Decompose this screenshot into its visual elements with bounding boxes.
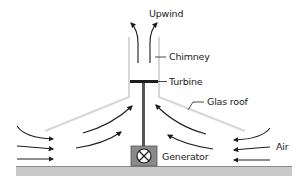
air-arrow-left-2 xyxy=(17,146,53,149)
air-arrow-right-4 xyxy=(156,105,206,134)
turbine-icon xyxy=(130,80,158,83)
updraft-tower-diagram xyxy=(0,0,307,182)
air-arrow-right-2 xyxy=(234,147,270,150)
glass-roof-left xyxy=(45,37,129,131)
glass-roof-label: Glas roof xyxy=(207,97,248,107)
generator-label: Generator xyxy=(162,152,208,162)
turbine-label: Turbine xyxy=(169,77,202,87)
chimney-label: Chimney xyxy=(169,52,210,62)
air-label: Air xyxy=(276,142,288,152)
air-arrow-right-5 xyxy=(168,135,213,149)
ground xyxy=(16,166,292,176)
upwind-label: Upwind xyxy=(149,9,183,19)
shaft xyxy=(142,83,145,146)
upwind-arrow-left xyxy=(131,23,138,63)
air-arrow-left-5 xyxy=(76,132,121,148)
air-arrow-left-4 xyxy=(83,106,132,133)
air-arrow-left-1 xyxy=(17,126,53,139)
